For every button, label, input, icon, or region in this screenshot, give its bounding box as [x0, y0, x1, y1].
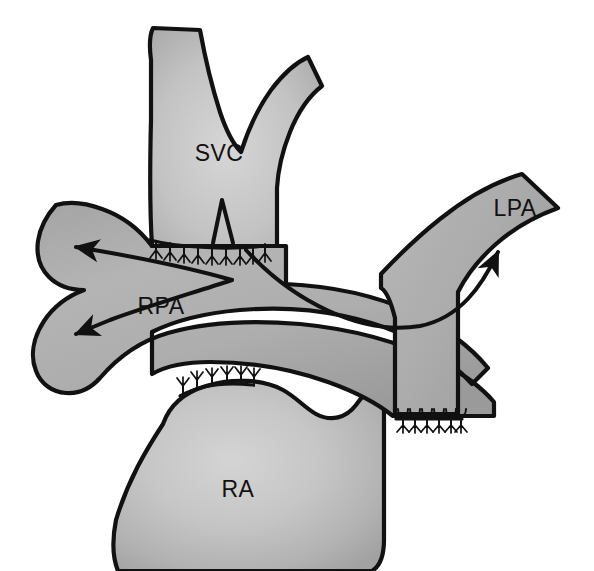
svc-shape [150, 28, 322, 246]
superior-vena-cava-structure [150, 28, 322, 246]
pa-stump-closure-suture [396, 409, 467, 433]
label-lpa: LPA [494, 195, 537, 221]
label-svc: SVC [195, 140, 244, 166]
anatomy-diagram-canvas: SVC RPA LPA RA [0, 0, 594, 571]
anatomy-figure: SVC RPA LPA RA [0, 0, 594, 571]
label-ra: RA [222, 476, 255, 502]
label-rpa: RPA [138, 293, 185, 319]
